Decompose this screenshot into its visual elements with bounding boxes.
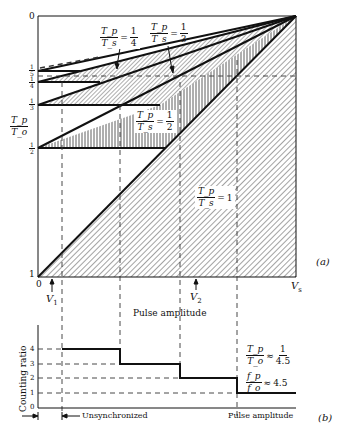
annotation-period-ratio: T_pT_o ≈ 14.5 (244, 344, 292, 367)
b-tick-4: 4 (30, 346, 34, 353)
x-axis-label-a: Pulse amplitude (133, 309, 206, 318)
diagram-canvas (0, 0, 349, 437)
region-label-1-4: T_pT_s = 14 (98, 26, 140, 49)
panel-b-label: (b) (318, 413, 332, 423)
b-tick-1: 1 (30, 390, 34, 397)
y-tick-1-2: 12 (29, 142, 35, 155)
marker-v1: V1 (46, 294, 58, 307)
panel-a-label: (a) (316, 257, 330, 267)
unsync-arrows (22, 412, 80, 420)
region-label-1-2: T_pT_s = 12 (134, 110, 176, 133)
y-axis-label: T_pT_o (10, 116, 28, 137)
y-tick-1-4: 14 (29, 76, 35, 89)
b-tick-2: 2 (30, 375, 34, 382)
region-label-1-3: T_pT_s = 13 (148, 22, 190, 45)
marker-vs: Vs (291, 281, 302, 294)
y-tick-1-3: 13 (29, 98, 35, 111)
b-tick-3: 3 (30, 361, 34, 368)
panel-b-gridlines (38, 349, 237, 393)
marker-arrows (50, 279, 198, 292)
marker-v2: V2 (190, 292, 202, 305)
x-axis-label-b: Pulse amplitude (228, 412, 293, 420)
unsynchronized-label: Unsynchronized (82, 412, 148, 420)
y-axis-label-b: Counting ratio (18, 346, 28, 412)
annotation-freq-ratio: f_pf_o ≈ 4.5 (244, 371, 289, 394)
y-tick-0: 0 (29, 12, 35, 21)
region-label-1: T_pT_s = 1 (195, 186, 235, 209)
x-tick-0: 0 (36, 280, 42, 289)
b-tick-0: 0 (30, 404, 34, 411)
y-tick-1: 1 (29, 270, 35, 279)
